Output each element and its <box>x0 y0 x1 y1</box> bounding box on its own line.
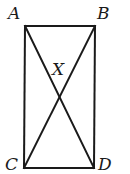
side-bd <box>94 26 95 168</box>
rectangle-diagram: A B X C D <box>0 0 130 174</box>
label-d: D <box>97 154 112 174</box>
label-a: A <box>6 3 20 23</box>
label-c: C <box>5 154 18 174</box>
label-b: B <box>96 3 110 23</box>
side-ca <box>24 26 25 168</box>
label-x: X <box>50 59 65 79</box>
